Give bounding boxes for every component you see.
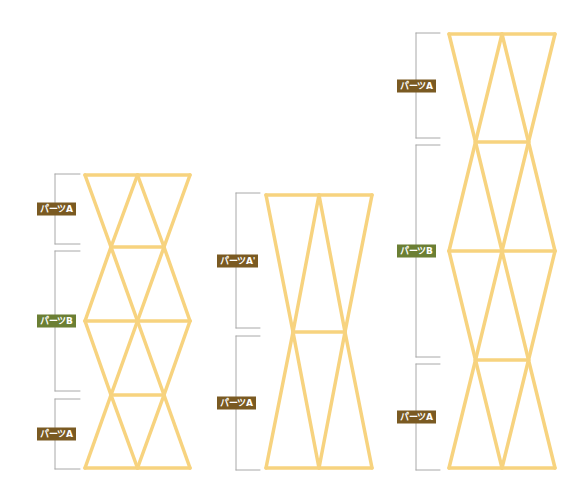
- edge-member: [449, 251, 476, 360]
- edge-member: [529, 34, 556, 142]
- edge-member: [164, 395, 190, 468]
- diagonal-member: [138, 395, 165, 468]
- diagonal-member: [502, 360, 529, 468]
- diagonal-member: [476, 142, 503, 251]
- diagonal-member: [502, 142, 529, 251]
- diagonal-member: [502, 34, 529, 142]
- middle-structure: [236, 193, 372, 470]
- edge-member: [345, 332, 372, 468]
- truss-frame: [85, 175, 190, 468]
- part-b-label: パーツB: [397, 245, 436, 258]
- part-a-label: パーツA: [217, 397, 256, 410]
- diagonal-member: [138, 321, 165, 395]
- part-a-label: パーツA: [397, 411, 436, 424]
- edge-member: [164, 175, 190, 247]
- edge-member: [529, 251, 556, 360]
- edge-member: [85, 321, 111, 395]
- edge-member: [85, 175, 111, 247]
- part-a-label: パーツA: [37, 203, 76, 216]
- diagonal-member: [476, 34, 503, 142]
- edge-member: [449, 142, 476, 251]
- part-b-label: パーツB: [37, 315, 76, 328]
- truss-frame: [449, 34, 555, 468]
- diagonal-member: [111, 321, 138, 395]
- diagonal-member: [502, 251, 529, 360]
- diagonal-member: [111, 247, 138, 321]
- edge-member: [345, 195, 372, 332]
- diagonal-member: [319, 332, 345, 468]
- edge-member: [85, 395, 111, 468]
- diagonal-member: [319, 195, 345, 332]
- edge-member: [266, 195, 293, 332]
- right-structure: [416, 33, 555, 470]
- diagonal-member: [293, 195, 319, 332]
- edge-member: [164, 247, 190, 321]
- diagonal-member: [111, 395, 138, 468]
- part-a-label: パーツA: [37, 428, 76, 441]
- truss-diagram: [0, 0, 587, 494]
- edge-member: [529, 360, 556, 468]
- diagonal-member: [293, 332, 319, 468]
- part-a-label: パーツA: [397, 79, 436, 92]
- edge-member: [449, 360, 476, 468]
- part-a-label: パーツA': [217, 254, 258, 267]
- diagonal-member: [138, 175, 165, 247]
- diagonal-member: [138, 247, 165, 321]
- edge-member: [529, 142, 556, 251]
- edge-member: [164, 321, 190, 395]
- truss-frame: [266, 195, 372, 468]
- diagonal-member: [476, 251, 503, 360]
- diagonal-member: [111, 175, 138, 247]
- edge-member: [85, 247, 111, 321]
- edge-member: [449, 34, 476, 142]
- diagonal-member: [476, 360, 503, 468]
- edge-member: [266, 332, 293, 468]
